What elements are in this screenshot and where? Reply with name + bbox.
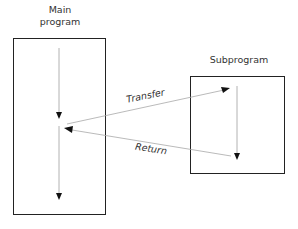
subprogram-flow-arrowhead-icon xyxy=(234,153,240,160)
return-arrowhead-icon xyxy=(64,126,73,133)
main-flow-upper xyxy=(56,48,62,119)
flow-diagram-canvas xyxy=(0,0,298,229)
subprogram-flow xyxy=(234,86,240,160)
transfer-arrowhead-icon xyxy=(221,87,230,93)
main-flow-lower xyxy=(56,126,62,200)
main-flow-lower-arrowhead-icon xyxy=(56,193,62,200)
main-flow-upper-arrowhead-icon xyxy=(56,112,62,119)
